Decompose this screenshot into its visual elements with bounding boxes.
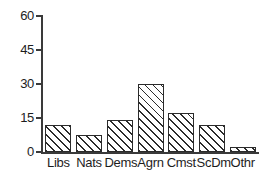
x-label-cmst: Cmst <box>166 156 197 170</box>
y-tick-label: 60 <box>0 9 34 22</box>
bar-chart: 015304560 LibsNatsDemsAgrnCmstScDmOthr <box>0 0 266 179</box>
y-tick-mark <box>36 151 42 152</box>
bar-agrn <box>138 84 164 152</box>
x-label-agrn: Agrn <box>135 156 166 170</box>
bars-group <box>43 16 258 152</box>
bar-scdm <box>199 125 225 152</box>
x-axis-labels: LibsNatsDemsAgrnCmstScDmOthr <box>43 156 258 176</box>
y-tick-mark <box>36 15 42 16</box>
x-label-dems: Dems <box>104 156 135 170</box>
y-tick-label: 15 <box>0 111 34 124</box>
y-tick-mark <box>36 117 42 118</box>
y-tick-label: 45 <box>0 43 34 56</box>
x-label-othr: Othr <box>227 156 258 170</box>
y-tick-mark <box>36 83 42 84</box>
x-axis-line <box>41 152 259 154</box>
bar-cmst <box>168 113 194 152</box>
x-label-scdm: ScDm <box>197 156 228 170</box>
y-tick-mark <box>36 49 42 50</box>
bar-libs <box>45 125 71 152</box>
bar-dems <box>107 120 133 152</box>
y-tick-label: 0 <box>0 145 34 158</box>
y-tick-label: 30 <box>0 77 34 90</box>
bar-nats <box>76 135 102 152</box>
bar-othr <box>230 147 256 152</box>
x-label-nats: Nats <box>74 156 105 170</box>
x-label-libs: Libs <box>43 156 74 170</box>
